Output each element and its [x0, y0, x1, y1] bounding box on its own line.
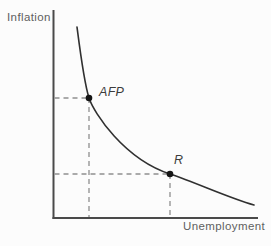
point-afp-dot: [86, 95, 93, 102]
y-axis-label: Inflation: [7, 11, 51, 23]
phillips-curve-diagram: Inflation Unemployment AFP R: [0, 0, 271, 246]
point-afp-label: AFP: [98, 85, 125, 99]
point-r-label: R: [174, 153, 183, 167]
point-r-dot: [167, 171, 174, 178]
x-axis-label: Unemployment: [183, 220, 266, 232]
diagram-svg: Inflation Unemployment AFP R: [0, 0, 271, 246]
phillips-curve-path: [77, 27, 254, 205]
